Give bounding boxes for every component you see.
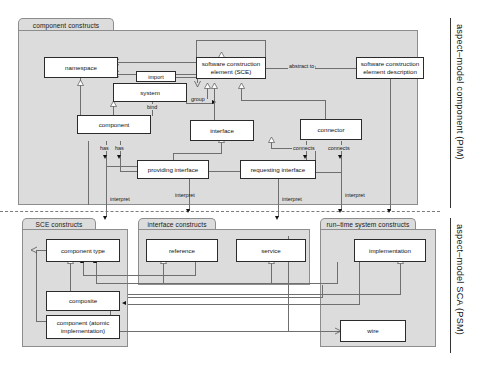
package-label-component-constructs: component constructs <box>33 22 100 29</box>
node-component-atomic[interactable]: component (atomic implementation) <box>46 315 120 339</box>
node-label-component-type: component type <box>61 247 105 255</box>
generalization-interface-sce <box>211 83 217 88</box>
generalization-component-namespace <box>77 80 83 85</box>
edge-into-composite-h <box>128 304 360 305</box>
edge-interpret-4 <box>341 172 342 211</box>
node-label-interface: interface <box>210 127 234 135</box>
node-wire[interactable]: wire <box>340 320 406 342</box>
package-label-runtime-system-constructs: run–time system constructs <box>327 221 410 228</box>
generalization-system-sce <box>204 83 210 88</box>
node-label-connector: connector <box>317 126 344 134</box>
edge-implementation-down-1 <box>337 262 338 284</box>
pim-psm-divider <box>0 211 440 212</box>
edge-label-interpret-3: interpret <box>282 196 302 202</box>
arrow-has-1 <box>103 155 107 159</box>
arrow-interpret-2 <box>186 209 190 213</box>
arrow-description-interpret <box>387 209 391 213</box>
edge-sce-interface <box>214 88 215 120</box>
edge-service-down <box>322 285 323 298</box>
node-label-reference: reference <box>169 247 195 255</box>
side-label-psm: aspect–model SCA (PSM) <box>455 224 465 335</box>
node-label-composite: composite <box>69 297 97 305</box>
edge-into-composite-h2 <box>128 297 323 298</box>
edge-into-component-type-2-h <box>96 283 338 284</box>
edge-sce-connector-h <box>241 100 326 101</box>
edge-group-line <box>186 103 214 104</box>
node-label-component-atomic: component (atomic implementation) <box>48 319 118 335</box>
node-providing-interface[interactable]: providing interface <box>137 160 209 179</box>
node-label-implementation: implementation <box>369 247 411 255</box>
generalization-requesting-interface <box>268 137 274 142</box>
node-label-providing-interface: providing interface <box>148 166 199 174</box>
edge-system-sce <box>207 88 208 99</box>
node-label-system: system <box>140 89 160 97</box>
package-label-sce-constructs: SCE constructs <box>36 221 83 228</box>
edge-label-group: group <box>190 96 206 102</box>
edge-label-has-1: has <box>99 145 110 151</box>
arrow-connects-2 <box>338 155 342 159</box>
node-sce-description[interactable]: software construction element descriptio… <box>356 57 424 79</box>
node-component[interactable]: component <box>77 115 151 134</box>
node-implementation[interactable]: implementation <box>354 239 426 262</box>
node-interface[interactable]: interface <box>190 120 254 141</box>
edge-label-interpret-1: interpret <box>110 196 130 202</box>
edge-sce-loop-left <box>196 40 197 57</box>
edge-component-down <box>88 141 89 205</box>
edge-atomic-left-v <box>36 250 37 322</box>
edge-providing-up <box>173 153 174 160</box>
edge-label-has-2: has <box>114 145 125 151</box>
arrow-interpret-3 <box>275 216 279 220</box>
edge-label-interpret-2: interpret <box>175 192 195 198</box>
edge-implementation-gen-v <box>400 262 401 295</box>
node-component-type[interactable]: component type <box>46 239 120 262</box>
edge-label-abstract-to: abstract to <box>288 63 315 69</box>
generalization-connector-sce <box>238 83 244 88</box>
node-label-sce-description: software construction element descriptio… <box>358 60 422 76</box>
node-sce[interactable]: software construction element (SCE) <box>196 57 266 79</box>
node-system[interactable]: system <box>113 83 187 102</box>
edge-label-connects-2: connects <box>327 145 351 151</box>
node-label-requesting-interface: requesting interface <box>251 166 305 174</box>
edge-implementation-down-2 <box>359 262 360 305</box>
edge-into-component-type-2 <box>96 262 97 284</box>
edge-label-box-import: import <box>136 71 176 82</box>
edge-interpret-3 <box>278 179 279 217</box>
edge-into-component-type-1-h <box>83 275 195 276</box>
edge-namespace-sce-a <box>118 62 196 63</box>
edge-reference-gen-v <box>163 262 164 284</box>
open-arrow-component-type-left <box>30 246 38 254</box>
node-label-wire: wire <box>367 327 378 335</box>
node-reference[interactable]: reference <box>146 239 218 262</box>
edge-label-connects-1: connects <box>292 145 316 151</box>
edge-reference-up-1 <box>195 260 196 276</box>
edge-description-interpret <box>390 179 391 211</box>
arrow-interpret-1 <box>103 216 107 220</box>
edge-composite-wire-h <box>110 331 340 332</box>
node-label-sce: software construction element (SCE) <box>198 60 264 76</box>
edge-interface-providing-h <box>173 153 222 154</box>
diagram-canvas: component constructs <box>0 0 490 370</box>
edge-service-gen-v <box>271 262 272 284</box>
open-arrow-import <box>194 80 201 88</box>
node-composite[interactable]: composite <box>46 291 120 311</box>
node-namespace[interactable]: namespace <box>44 57 118 78</box>
edge-label-import: import <box>148 74 164 80</box>
edge-into-component-type-1 <box>83 262 84 276</box>
package-label-interface-constructs: interface constructs <box>147 221 206 228</box>
node-connector[interactable]: connector <box>300 119 362 140</box>
edge-label-interpret-4: interpret <box>345 192 365 198</box>
arrow-has-2 <box>117 155 121 159</box>
node-label-service: service <box>261 247 281 255</box>
edge-sce-loop-right <box>265 40 266 57</box>
bracket-psm <box>450 218 451 353</box>
node-service[interactable]: service <box>236 239 306 262</box>
edge-connector-down <box>325 100 326 119</box>
edge-label-bind: bind <box>146 104 158 110</box>
node-requesting-interface[interactable]: requesting interface <box>240 160 316 179</box>
arrow-into-composite <box>122 301 126 305</box>
edge-implementation-gen-h <box>128 294 400 295</box>
bracket-pim <box>450 18 451 208</box>
arrow-interpret-4 <box>338 209 342 213</box>
edge-sce-loop-top <box>196 40 266 41</box>
node-label-component: component <box>99 121 130 129</box>
